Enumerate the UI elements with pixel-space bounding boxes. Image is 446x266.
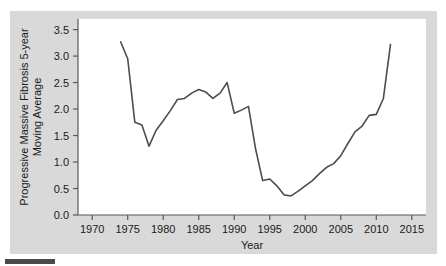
x-tick-label: 1970	[80, 223, 104, 235]
y-tick-label: 0.0	[54, 209, 69, 221]
y-tick-group: 0.00.51.01.52.02.53.03.5	[54, 24, 78, 221]
x-tick-label: 2015	[400, 223, 424, 235]
y-tick-label: 3.5	[54, 24, 69, 36]
x-tick-label: 1975	[115, 223, 139, 235]
plot-area	[78, 19, 426, 215]
x-tick-group: 1970197519801985199019952000200520102015	[80, 215, 424, 235]
y-axis-title-line-1: Progressive Massive Fibrosis 5-year	[18, 28, 30, 206]
y-tick-label: 0.5	[54, 183, 69, 195]
x-axis-title: Year	[241, 239, 264, 251]
x-tick-label: 2005	[329, 223, 353, 235]
y-tick-label: 1.5	[54, 130, 69, 142]
x-tick-label: 1995	[258, 223, 282, 235]
line-chart: 0.00.51.01.52.02.53.03.5 197019751980198…	[0, 0, 446, 266]
x-tick-label: 2010	[364, 223, 388, 235]
x-tick-label: 1985	[186, 223, 210, 235]
x-tick-label: 1990	[222, 223, 246, 235]
y-axis-title-line-2: Moving Average	[31, 78, 43, 157]
y-tick-label: 2.5	[54, 77, 69, 89]
y-tick-label: 2.0	[54, 103, 69, 115]
x-tick-label: 1980	[151, 223, 175, 235]
y-tick-label: 3.0	[54, 50, 69, 62]
bottom-edge-fragment	[5, 259, 55, 264]
x-tick-label: 2000	[293, 223, 317, 235]
y-tick-label: 1.0	[54, 156, 69, 168]
